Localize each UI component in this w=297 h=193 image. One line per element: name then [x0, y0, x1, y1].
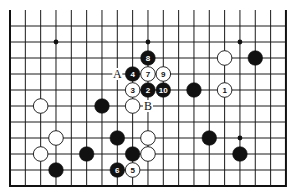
move-number: 5: [130, 166, 135, 175]
move-number: 4: [130, 70, 135, 79]
star-point-icon: [238, 136, 243, 141]
black-stone: [248, 51, 263, 66]
black-stone: [95, 99, 110, 114]
move-number: 9: [161, 70, 166, 79]
star-point-icon: [238, 40, 243, 45]
white-stone-icon: [33, 147, 48, 162]
black-stone-icon: [110, 131, 125, 146]
move-number: 7: [146, 70, 151, 79]
move-number: 10: [159, 86, 168, 95]
white-stone-icon: [217, 51, 232, 66]
black-stone-icon: [49, 163, 64, 178]
black-stone-icon: [95, 99, 110, 114]
black-stone: [202, 131, 217, 146]
position-marker-b: B: [144, 99, 152, 113]
black-stone-6: 6: [110, 163, 125, 178]
position-marker-a: A: [113, 67, 122, 81]
black-stone: [79, 147, 94, 162]
white-stone: [141, 147, 156, 162]
go-board: AB 84793210165: [0, 0, 297, 193]
white-stone-7: 7: [141, 67, 156, 82]
move-number: 8: [146, 54, 151, 63]
white-stone-icon: [33, 99, 48, 114]
white-stone: [33, 147, 48, 162]
star-point-icon: [146, 40, 151, 45]
black-stone-icon: [187, 83, 202, 98]
black-stone-icon: [233, 147, 248, 162]
move-number: 1: [222, 86, 227, 95]
black-stone: [125, 147, 140, 162]
move-number: 6: [115, 166, 120, 175]
white-stone: [125, 99, 140, 114]
white-stone-1: 1: [217, 83, 232, 98]
black-stone: [49, 163, 64, 178]
white-stone-5: 5: [125, 163, 140, 178]
white-stone: [33, 99, 48, 114]
white-stone: [217, 51, 232, 66]
black-stone-icon: [125, 147, 140, 162]
black-stone-10: 10: [156, 83, 171, 98]
white-stone-icon: [125, 99, 140, 114]
white-stone: [141, 131, 156, 146]
black-stone-2: 2: [141, 83, 156, 98]
black-stone-icon: [248, 51, 263, 66]
move-number: 2: [146, 86, 151, 95]
black-stone-4: 4: [125, 67, 140, 82]
white-stone-icon: [141, 131, 156, 146]
go-board-diagram: AB 84793210165: [0, 0, 297, 193]
black-stone-8: 8: [141, 51, 156, 66]
black-stone: [110, 131, 125, 146]
black-stone: [233, 147, 248, 162]
white-stone-3: 3: [125, 83, 140, 98]
white-stone-icon: [49, 131, 64, 146]
white-stone: [49, 131, 64, 146]
white-stone-icon: [141, 147, 156, 162]
white-stone-9: 9: [156, 67, 171, 82]
star-point-icon: [54, 40, 59, 45]
black-stone: [187, 83, 202, 98]
move-number: 3: [130, 86, 135, 95]
black-stone-icon: [202, 131, 217, 146]
black-stone-icon: [79, 147, 94, 162]
